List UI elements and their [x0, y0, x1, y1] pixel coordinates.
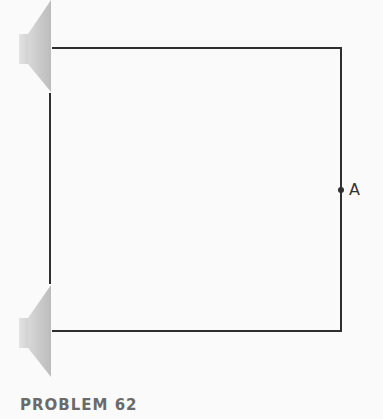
point-a-label: A	[349, 180, 360, 199]
point-a-marker	[338, 187, 344, 193]
path-lines	[50, 47, 342, 332]
speaker-path-diagram	[0, 0, 383, 419]
problem-caption: PROBLEM 62	[20, 396, 138, 414]
bottom-speaker-icon	[19, 285, 51, 377]
top-speaker-icon	[19, 0, 51, 92]
